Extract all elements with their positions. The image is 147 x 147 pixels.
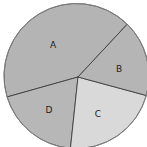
slice-label-d: D bbox=[46, 105, 53, 115]
pie-chart: ABCD bbox=[0, 0, 147, 147]
slice-label-c: C bbox=[95, 109, 101, 119]
slice-label-a: A bbox=[50, 40, 57, 50]
slice-label-b: B bbox=[116, 64, 122, 74]
